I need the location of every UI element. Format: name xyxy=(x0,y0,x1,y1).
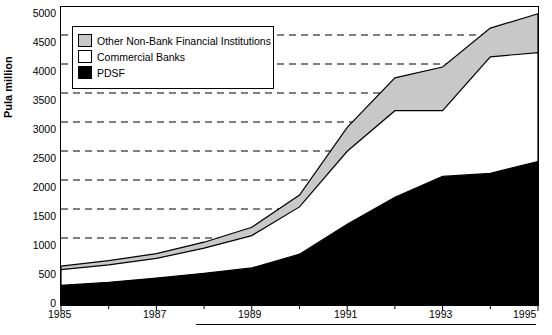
x-tick-label: 1991 xyxy=(334,308,357,320)
legend-label: PDSF xyxy=(97,67,125,79)
legend-label: Commercial Banks xyxy=(97,51,185,63)
y-axis-ticks: 5000 4500 4000 3500 3000 2500 2000 1500 … xyxy=(0,0,56,300)
legend-item-other-nonbank: Other Non-Bank Financial Institutions xyxy=(78,34,269,47)
chart-legend: Other Non-Bank Financial Institutions Co… xyxy=(72,26,274,89)
legend-swatch-icon xyxy=(78,50,92,63)
x-tick-label: 1993 xyxy=(429,308,452,320)
y-tick-label: 2000 xyxy=(33,181,56,193)
y-tick-label: 2500 xyxy=(33,152,56,164)
y-tick-label: 500 xyxy=(38,268,56,280)
x-tick-label: 1987 xyxy=(143,308,166,320)
y-tick-label: 1500 xyxy=(33,210,56,222)
y-tick-label: 5000 xyxy=(33,7,56,19)
chart-container: Pula million 5000 4500 4000 3500 3000 25… xyxy=(0,0,552,335)
x-tick-label: 1995 xyxy=(513,308,536,320)
legend-label: Other Non-Bank Financial Institutions xyxy=(97,35,271,47)
legend-swatch-icon xyxy=(78,66,92,79)
x-tick-label: 1989 xyxy=(238,308,261,320)
x-tick-label: 1985 xyxy=(48,308,71,320)
y-tick-label: 3000 xyxy=(33,123,56,135)
footer-rule xyxy=(196,324,536,325)
y-tick-label: 4500 xyxy=(33,36,56,48)
legend-swatch-icon xyxy=(78,34,92,47)
y-tick-label: 3500 xyxy=(33,94,56,106)
legend-item-pdsf: PDSF xyxy=(78,66,269,79)
legend-item-commercial-banks: Commercial Banks xyxy=(78,50,269,63)
y-tick-label: 1000 xyxy=(33,239,56,251)
y-tick-label: 4000 xyxy=(33,65,56,77)
